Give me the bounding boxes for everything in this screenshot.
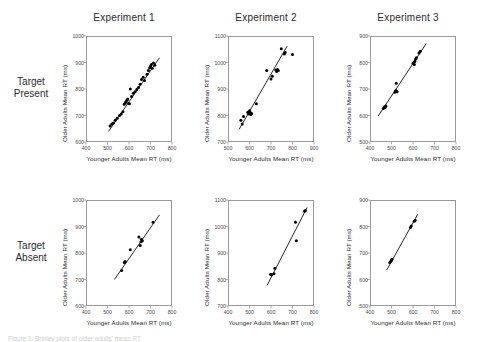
- y-tick-label: 900: [346, 197, 368, 203]
- data-point: [142, 76, 145, 79]
- x-tick-label: 400: [359, 309, 381, 315]
- x-tick-label: 700: [140, 145, 162, 151]
- x-tick-label: 400: [217, 309, 239, 315]
- column-title-experiment-1: Experiment 1: [66, 12, 182, 23]
- data-point: [265, 69, 268, 72]
- data-point: [120, 269, 123, 272]
- y-axis-title: Older Adults Mean RT (ms): [61, 229, 68, 306]
- x-tick-label: 900: [303, 145, 325, 151]
- x-tick-label: 700: [260, 145, 282, 151]
- data-point: [396, 90, 399, 93]
- scatter-panel: 6007008009001000400500600700800Older Adu…: [52, 194, 182, 334]
- x-tick-label: 700: [140, 309, 162, 315]
- x-tick-label: 800: [161, 309, 183, 315]
- data-point: [419, 50, 422, 53]
- x-tick-label: 700: [282, 309, 304, 315]
- data-point: [139, 244, 142, 247]
- data-point: [413, 63, 416, 66]
- x-tick-label: 600: [402, 309, 424, 315]
- regression-line: [239, 46, 287, 129]
- data-point: [152, 221, 155, 224]
- x-tick-label: 800: [282, 145, 304, 151]
- data-point: [304, 209, 307, 212]
- x-tick-label: 400: [75, 145, 97, 151]
- data-point: [137, 86, 140, 89]
- x-axis-title: Younger Adults Mean RT (ms): [358, 319, 468, 326]
- data-point: [128, 102, 131, 105]
- data-point: [137, 236, 140, 239]
- x-tick-label: 500: [217, 145, 239, 151]
- data-point: [141, 239, 144, 242]
- data-point: [147, 69, 150, 72]
- data-point: [284, 51, 287, 54]
- x-tick-label: 700: [424, 309, 446, 315]
- y-axis-title: Older Adults Mean RT (ms): [61, 65, 68, 142]
- data-point: [415, 56, 418, 59]
- data-point: [250, 112, 253, 115]
- y-tick-label: 900: [346, 33, 368, 39]
- data-point: [255, 102, 258, 105]
- y-tick-label: 1000: [62, 33, 84, 39]
- data-point: [291, 53, 294, 56]
- y-axis-title: Older Adults Mean RT (ms): [203, 65, 210, 142]
- column-title-experiment-2: Experiment 2: [208, 12, 324, 23]
- x-tick-label: 600: [260, 309, 282, 315]
- scatter-panel: 70080090010001100400500600700800Older Ad…: [194, 194, 324, 334]
- data-point: [242, 115, 245, 118]
- data-point: [239, 119, 242, 122]
- y-tick-label: 1100: [204, 197, 226, 203]
- data-point: [129, 248, 132, 251]
- data-point: [151, 67, 154, 70]
- x-tick-label: 800: [161, 145, 183, 151]
- scatter-panel: 500600700800900400500600700800Older Adul…: [336, 194, 466, 334]
- x-tick-label: 500: [97, 309, 119, 315]
- data-point: [273, 272, 276, 275]
- data-point: [116, 117, 119, 120]
- x-tick-label: 500: [239, 309, 261, 315]
- x-tick-label: 800: [445, 145, 467, 151]
- scatter-panel: 6007008009001000400500600700800Older Adu…: [52, 30, 182, 170]
- data-point: [146, 73, 149, 76]
- data-point: [271, 75, 274, 78]
- data-point: [121, 110, 124, 113]
- y-axis-title: Older Adults Mean RT (ms): [203, 229, 210, 306]
- data-point: [270, 77, 273, 80]
- data-point: [395, 82, 398, 85]
- data-point: [273, 267, 276, 270]
- data-point: [410, 224, 413, 227]
- scatter-panel: 500600700800900400500600700800Older Adul…: [336, 30, 466, 170]
- y-axis-title: Older Adults Mean RT (ms): [345, 229, 352, 306]
- y-axis-title: Older Adults Mean RT (ms): [345, 65, 352, 142]
- x-axis-title: Younger Adults Mean RT (ms): [74, 155, 184, 162]
- data-point: [280, 47, 283, 50]
- data-point: [126, 98, 129, 101]
- x-tick-label: 700: [424, 145, 446, 151]
- x-axis-title: Younger Adults Mean RT (ms): [358, 155, 468, 162]
- data-point: [414, 219, 417, 222]
- data-point: [143, 79, 146, 82]
- x-tick-label: 600: [239, 145, 261, 151]
- x-axis-title: Younger Adults Mean RT (ms): [216, 155, 326, 162]
- y-tick-label: 1000: [62, 197, 84, 203]
- x-tick-label: 800: [303, 309, 325, 315]
- data-point: [139, 83, 142, 86]
- data-point: [294, 221, 297, 224]
- data-point: [390, 258, 393, 261]
- x-tick-label: 500: [97, 145, 119, 151]
- data-point: [130, 95, 133, 98]
- x-axis-title: Younger Adults Mean RT (ms): [74, 319, 184, 326]
- x-tick-label: 600: [118, 309, 140, 315]
- x-tick-label: 400: [359, 145, 381, 151]
- data-point: [112, 121, 115, 124]
- data-point: [153, 64, 156, 67]
- data-point: [241, 122, 244, 125]
- data-point: [295, 239, 298, 242]
- data-point: [384, 104, 387, 107]
- x-tick-label: 600: [402, 145, 424, 151]
- data-point: [277, 69, 280, 72]
- x-tick-label: 500: [381, 309, 403, 315]
- data-point: [124, 260, 127, 263]
- x-tick-label: 600: [118, 145, 140, 151]
- scatter-panel: 70080090010001100500600700800900Older Ad…: [194, 30, 324, 170]
